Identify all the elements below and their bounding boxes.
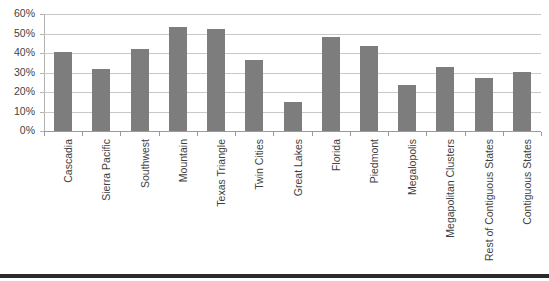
bar[interactable] <box>169 27 187 131</box>
bar-chart: 0%10%20%30%40%50%60% CascadiaSierra Paci… <box>0 0 549 281</box>
x-tick-label: Sierra Pacific <box>106 139 117 201</box>
y-tick-label: 10% <box>0 106 35 117</box>
x-tick-label: Florida <box>336 139 347 171</box>
bar[interactable] <box>436 67 454 131</box>
bar[interactable] <box>398 85 416 131</box>
bar[interactable] <box>131 49 149 131</box>
x-tick-label: Rest of Contiguous States <box>489 139 500 261</box>
bar[interactable] <box>322 37 340 131</box>
y-axis: 0%10%20%30%40%50%60% <box>0 0 40 281</box>
x-tick-label: Twin Cities <box>259 139 270 190</box>
x-tick-mark <box>159 132 160 136</box>
x-tick-label: Great Lakes <box>298 139 309 196</box>
y-tick-label: 60% <box>0 8 35 19</box>
x-tick-label: Southwest <box>145 139 156 188</box>
y-tick-mark <box>40 112 44 113</box>
x-tick-mark <box>197 132 198 136</box>
x-tick-mark <box>120 132 121 136</box>
x-tick-mark <box>312 132 313 136</box>
bar[interactable] <box>92 69 110 131</box>
bar[interactable] <box>513 72 531 131</box>
bar[interactable] <box>54 52 72 131</box>
x-tick-mark <box>465 132 466 136</box>
bar[interactable] <box>245 60 263 131</box>
y-tick-label: 0% <box>0 125 35 136</box>
x-tick-label: Mountain <box>183 139 194 182</box>
x-tick-mark <box>503 132 504 136</box>
y-tick-mark <box>40 34 44 35</box>
y-tick-mark <box>40 92 44 93</box>
bar[interactable] <box>360 46 378 131</box>
y-tick-label: 20% <box>0 86 35 97</box>
y-tick-mark <box>40 53 44 54</box>
x-tick-label: Megapolitan Clusters <box>450 139 461 238</box>
bar[interactable] <box>207 29 225 131</box>
y-tick-mark <box>40 14 44 15</box>
x-tick-mark <box>273 132 274 136</box>
x-tick-mark <box>82 132 83 136</box>
x-tick-mark <box>388 132 389 136</box>
x-tick-mark <box>541 132 542 136</box>
x-tick-label: Megalopolis <box>412 139 423 195</box>
x-tick-label: Cascadia <box>68 139 79 183</box>
x-tick-label: Piedmont <box>374 139 385 183</box>
x-axis-labels: CascadiaSierra PacificSouthwestMountainT… <box>44 139 541 281</box>
x-tick-label: Texas Triangle <box>221 139 232 207</box>
x-tick-mark <box>426 132 427 136</box>
x-tick-mark <box>350 132 351 136</box>
x-tick-mark <box>235 132 236 136</box>
y-tick-label: 30% <box>0 67 35 78</box>
bars-layer <box>44 14 541 131</box>
y-tick-label: 50% <box>0 28 35 39</box>
x-tick-label: Contiguous States <box>527 139 538 225</box>
bar[interactable] <box>475 78 493 131</box>
y-tick-mark <box>40 73 44 74</box>
y-tick-label: 40% <box>0 47 35 58</box>
x-tick-mark <box>44 132 45 136</box>
bar[interactable] <box>284 102 302 131</box>
x-axis-line <box>44 131 541 132</box>
